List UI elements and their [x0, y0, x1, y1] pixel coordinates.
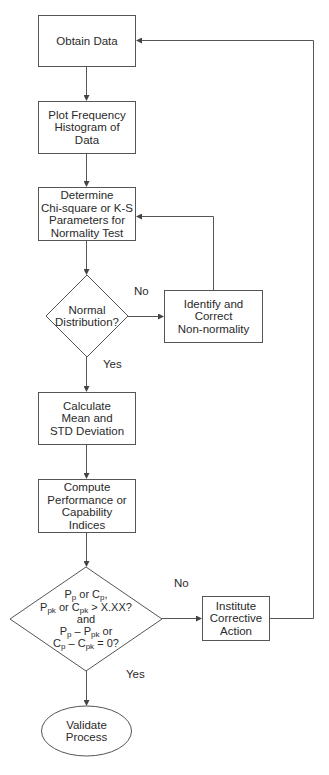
plot-histogram-label: Plot Frequency Histogram of Data: [38, 101, 136, 154]
normal-decision-label: Normal Distribution?: [46, 296, 128, 336]
edge-identify-to-determine: [137, 217, 214, 291]
calculate-mean-label: Calculate Mean and STD Deviation: [38, 392, 136, 445]
capability-no-label: No: [174, 577, 189, 589]
capability-yes-label: Yes: [126, 668, 145, 680]
normal-no-label: No: [134, 285, 149, 297]
determine-params-label: Determine Chi-square or K-S Parameters f…: [38, 187, 136, 241]
capability-decision-label: Pp or Cp, Ppk or Cpk > X.XX? and Pp – Pp…: [20, 585, 152, 653]
institute-action-label: Institute Corrective Action: [202, 596, 270, 641]
identify-correct-label: Identify and Correct Non-normality: [164, 290, 263, 343]
normal-yes-label: Yes: [103, 358, 122, 370]
obtain-data-label: Obtain Data: [38, 15, 136, 67]
compute-indices-label: Compute Performance or Capability Indice…: [38, 479, 136, 533]
validate-process-label: Validate Process: [41, 706, 132, 756]
